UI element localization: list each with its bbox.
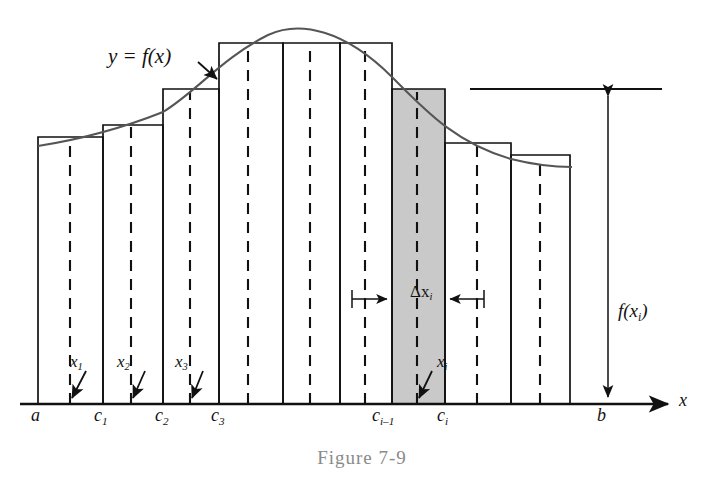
x-axis-label: x [679,390,687,411]
sample-label-xi: xi [437,352,447,372]
tick-label-a: a [31,405,40,426]
tick-label-ci: ci [437,405,448,426]
sample-point-arrows [72,371,432,398]
sample-label-x1: x1 [70,352,83,372]
figure-riemann-sum: y = f(x) Δxi f(xi) x1 x2 x3 xi a c1 c2 c… [0,0,724,493]
height-label: f(xi) [618,300,648,322]
tick-label-c1: c1 [94,405,108,426]
curve-label: y = f(x) [108,44,171,69]
delta-x-label: Δxi [410,282,432,302]
tick-label-ci-minus-1: ci–1 [372,405,394,426]
sample-point-dashed-lines [70,46,540,404]
figure-canvas [0,0,724,493]
tick-label-b: b [597,405,606,426]
riemann-rectangles [38,43,570,404]
sample-label-x3: x3 [175,352,188,372]
sample-label-x2: x2 [117,352,130,372]
figure-caption: Figure 7-9 [0,447,724,469]
tick-label-c2: c2 [155,405,169,426]
tick-label-c3: c3 [211,405,225,426]
